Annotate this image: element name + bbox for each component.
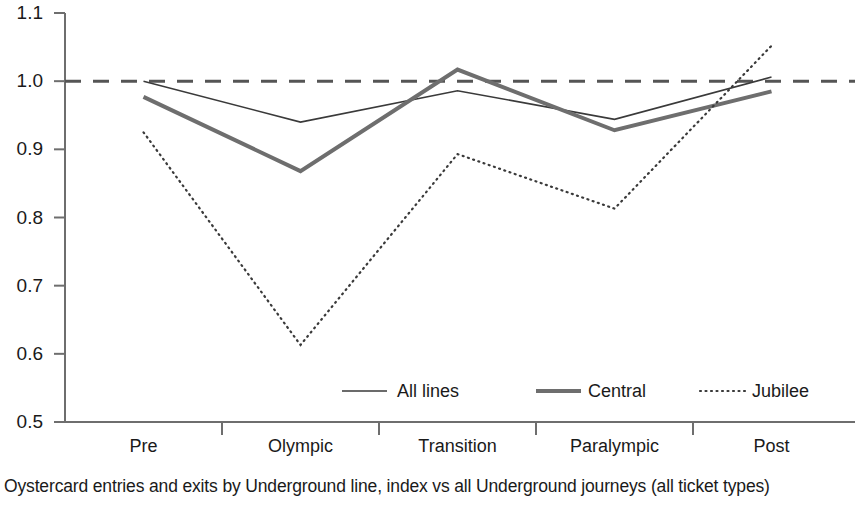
- y-axis-tick-label: 1.1: [17, 2, 43, 23]
- x-axis-tick-label: Transition: [418, 436, 496, 456]
- line-chart: 0.50.60.70.80.91.01.1PreOlympicTransitio…: [0, 0, 855, 508]
- legend-label-jubilee: Jubilee: [752, 381, 809, 401]
- x-axis-tick-label: Post: [753, 436, 789, 456]
- x-axis-tick-label: Olympic: [268, 436, 333, 456]
- y-axis-tick-label: 0.8: [17, 207, 43, 228]
- legend-label-central: Central: [588, 381, 646, 401]
- y-axis-tick-label: 0.6: [17, 343, 43, 364]
- x-axis-tick-label: Pre: [129, 436, 157, 456]
- y-axis-tick-label: 1.0: [17, 70, 43, 91]
- chart-caption: Oystercard entries and exits by Undergro…: [4, 476, 770, 497]
- chart-figure: 0.50.60.70.80.91.01.1PreOlympicTransitio…: [0, 0, 855, 508]
- legend-label-all-lines: All lines: [397, 381, 459, 401]
- series-line-central: [144, 70, 772, 172]
- x-axis-tick-label: Paralympic: [570, 436, 659, 456]
- y-axis-tick-label: 0.9: [17, 138, 43, 159]
- y-axis-tick-label: 0.5: [17, 411, 43, 432]
- y-axis-tick-label: 0.7: [17, 275, 43, 296]
